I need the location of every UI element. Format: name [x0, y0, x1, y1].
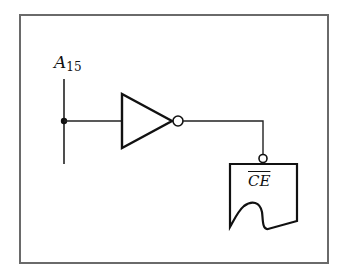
a15-label: A15	[54, 52, 82, 74]
inverter-output-wire	[183, 121, 263, 154]
circuit-schematic	[0, 0, 343, 277]
inverter-bubble-icon	[173, 116, 183, 126]
ce-pin-label: CE	[248, 172, 270, 190]
ce-bubble-icon	[259, 155, 267, 163]
inverter-triangle-icon	[122, 94, 172, 148]
